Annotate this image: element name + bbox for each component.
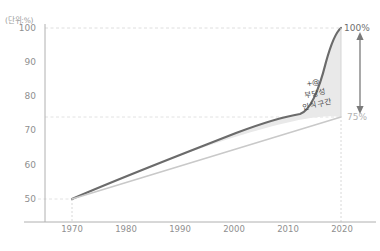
range-arrow-icon (356, 32, 363, 114)
x-tick-1990: 1990 (169, 224, 191, 234)
y-tick-100: 100 (8, 23, 36, 33)
x-tick-1980: 1980 (115, 224, 137, 234)
x-tick-2010: 2010 (277, 224, 299, 234)
y-tick-50: 50 (8, 194, 36, 204)
y-tick-80: 80 (8, 91, 36, 101)
top-value-label: 100% (344, 23, 370, 33)
x-tick-2020: 2020 (331, 224, 353, 234)
chart-container: (단위:%) 100 90 80 70 60 50 (0, 0, 380, 251)
x-axis-labels: 1970 1980 1990 2000 2010 2020 (0, 224, 380, 240)
chart-plot (0, 0, 380, 251)
y-tick-90: 90 (8, 57, 36, 67)
bottom-value-label: 75% (347, 112, 367, 122)
y-axis-labels: 100 90 80 70 60 50 (6, 0, 36, 251)
lower-trend-line (72, 117, 341, 199)
x-tick-1970: 1970 (61, 224, 83, 234)
y-tick-70: 70 (8, 125, 36, 135)
x-tick-2000: 2000 (223, 224, 245, 234)
y-tick-60: 60 (8, 160, 36, 170)
